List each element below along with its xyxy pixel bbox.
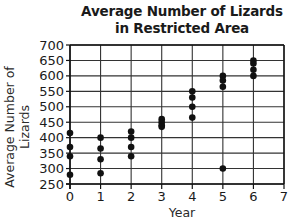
data-point bbox=[128, 128, 135, 135]
x-tick-label: 7 bbox=[280, 189, 288, 204]
x-tick-label: 4 bbox=[188, 189, 196, 204]
data-point bbox=[250, 73, 257, 80]
y-tick-label: 550 bbox=[39, 84, 64, 99]
y-tick-label: 400 bbox=[39, 130, 64, 145]
x-tick-label: 1 bbox=[96, 189, 104, 204]
y-tick-label: 700 bbox=[39, 38, 64, 53]
data-point bbox=[189, 88, 196, 95]
data-point bbox=[97, 145, 104, 152]
data-point bbox=[158, 124, 165, 131]
x-axis-label: Year bbox=[152, 205, 212, 220]
x-tick-label: 3 bbox=[158, 189, 166, 204]
data-point bbox=[67, 130, 74, 137]
y-tick-label: 600 bbox=[39, 68, 64, 83]
data-point bbox=[128, 144, 135, 151]
y-tick-label: 300 bbox=[39, 161, 64, 176]
data-point bbox=[220, 77, 227, 84]
data-point bbox=[220, 165, 227, 172]
x-tick-label: 5 bbox=[219, 189, 227, 204]
y-tick-label: 500 bbox=[39, 99, 64, 114]
data-point bbox=[97, 156, 104, 163]
y-tick-label: 350 bbox=[39, 146, 64, 161]
axis-ticks bbox=[66, 45, 284, 189]
data-point bbox=[128, 134, 135, 141]
data-point bbox=[67, 153, 74, 160]
scatter-plot: 25030035040045050055060065070001234567 bbox=[0, 0, 304, 224]
data-point bbox=[67, 171, 74, 178]
data-point bbox=[250, 60, 257, 67]
y-axis-label: Average Number of Lizards bbox=[2, 52, 32, 202]
y-tick-label: 250 bbox=[39, 177, 64, 192]
data-point bbox=[250, 66, 257, 73]
data-point bbox=[128, 153, 135, 160]
data-point bbox=[97, 134, 104, 141]
data-point bbox=[97, 170, 104, 177]
x-tick-label: 6 bbox=[249, 189, 257, 204]
y-tick-label: 450 bbox=[39, 115, 64, 130]
data-point bbox=[189, 94, 196, 101]
x-tick-label: 0 bbox=[66, 189, 74, 204]
y-tick-label: 650 bbox=[39, 53, 64, 68]
data-point bbox=[67, 144, 74, 151]
data-point bbox=[189, 103, 196, 110]
x-tick-label: 2 bbox=[127, 189, 135, 204]
data-point bbox=[189, 114, 196, 121]
data-point bbox=[220, 83, 227, 90]
